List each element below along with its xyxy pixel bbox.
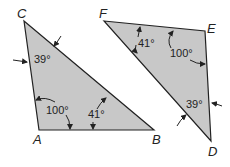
arrow-icon bbox=[54, 36, 61, 46]
vertex-label-c: C bbox=[17, 6, 27, 21]
angle-e-label: 100° bbox=[170, 47, 193, 59]
vertex-label-f: F bbox=[99, 6, 108, 21]
angle-b-label: 41° bbox=[88, 108, 105, 120]
arrow-icon bbox=[13, 60, 27, 62]
vertex-label-b: B bbox=[152, 132, 161, 147]
angle-f-label: 41° bbox=[138, 37, 155, 49]
angle-a-label: 100° bbox=[46, 104, 69, 116]
angle-d-label: 39° bbox=[186, 98, 203, 110]
arrow-icon bbox=[212, 103, 222, 106]
vertex-label-a: A bbox=[32, 132, 42, 147]
congruent-triangles-diagram: C A B 39° 100° 41° F E D 41° 100° 39° bbox=[0, 0, 230, 167]
vertex-label-d: D bbox=[208, 144, 217, 159]
arrow-icon bbox=[177, 115, 186, 126]
vertex-label-e: E bbox=[207, 21, 216, 36]
angle-c-label: 39° bbox=[34, 53, 51, 65]
